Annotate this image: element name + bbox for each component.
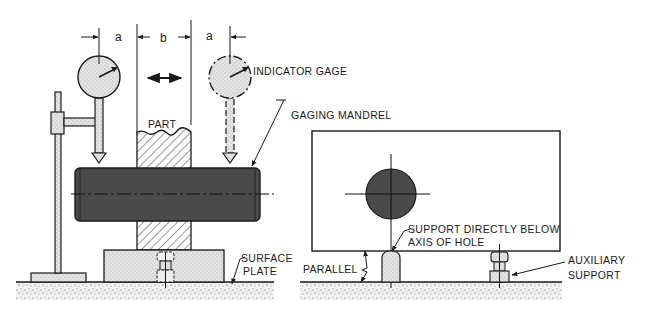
gaging-mandrel [71,168,274,221]
diagram-figure: a b a PART INDICATOR GAGE [0,0,645,313]
indicator-gage-label: INDICATOR GAGE [253,65,347,77]
indicator-gage-right [209,56,251,163]
indicator-gage-left [78,56,120,163]
base-block [104,250,224,288]
auxiliary-support-label-1: AUXILIARY [568,254,625,266]
support-label-1: SUPPORT DIRECTLY BELOW [408,223,560,235]
surface-plate-label-1: SURFACE [241,252,293,264]
support-label-2: AXIS OF HOLE [408,236,485,248]
main-support [382,251,400,282]
right-view: SUPPORT DIRECTLY BELOW AXIS OF HOLE PARA… [300,131,625,300]
gaging-mandrel-label: GAGING MANDREL [291,109,391,121]
dim-a-right: a [206,29,213,43]
auxiliary-support-label-2: SUPPORT [568,269,621,281]
dim-b: b [160,31,167,45]
surface-plate-right [300,282,562,300]
part-label: PART [148,118,177,130]
surface-plate [16,282,274,300]
surface-plate-label-2: PLATE [243,265,277,277]
dim-a-left: a [115,30,122,44]
parallel-label: PARALLEL [303,263,358,275]
